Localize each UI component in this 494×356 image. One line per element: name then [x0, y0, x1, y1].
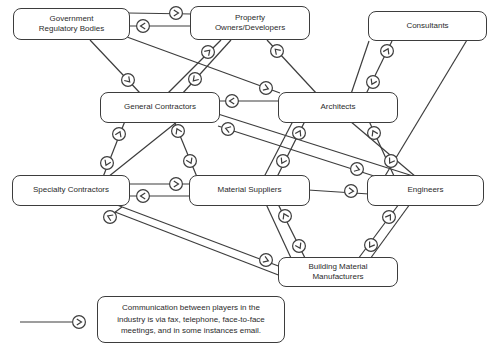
direction-arrow-icon: [73, 316, 86, 329]
direction-arrow-icon: [202, 46, 215, 59]
legend-note: Communication between players in the ind…: [97, 296, 285, 343]
direction-arrow-icon: [260, 254, 273, 267]
direction-arrow-icon: [184, 155, 197, 168]
connector-line: [115, 212, 281, 276]
direction-arrow-icon: [368, 127, 381, 140]
direction-arrow-icon: [104, 211, 117, 224]
node-engineers: Engineers: [367, 175, 484, 206]
node-consultants: Consultants: [368, 11, 487, 41]
direction-arrow-icon: [381, 45, 394, 58]
direction-arrow-icon: [293, 240, 306, 253]
direction-arrow-icon: [170, 178, 183, 191]
direction-arrow-icon: [385, 155, 398, 168]
direction-arrow-icon: [226, 95, 239, 108]
direction-arrow-icon: [345, 185, 358, 198]
direction-arrow-icon: [271, 45, 284, 58]
direction-arrow-icon: [293, 127, 306, 140]
connector-line: [127, 37, 280, 93]
node-government-regulatory-bodies: Government Regulatory Bodies: [13, 8, 130, 40]
direction-arrow-icon: [137, 20, 150, 33]
direction-arrow-icon: [113, 128, 126, 141]
connector-line: [218, 114, 413, 176]
node-material-suppliers: Material Suppliers: [189, 175, 310, 206]
connector-line: [351, 41, 369, 94]
node-property-owners-developers: Property Owners/Developers: [190, 6, 310, 40]
connector-line: [308, 190, 369, 194]
direction-arrow-icon: [383, 211, 396, 224]
node-specialty-contractors: Specialty Contractors: [12, 175, 130, 206]
direction-arrow-icon: [170, 7, 183, 20]
direction-arrow-icon: [172, 125, 185, 138]
direction-arrow-icon: [351, 163, 364, 176]
direction-arrow-icon: [277, 155, 290, 168]
direction-arrow-icon: [222, 123, 235, 136]
node-architects: Architects: [278, 92, 398, 123]
direction-arrow-icon: [189, 73, 202, 86]
direction-arrow-icon: [137, 190, 150, 203]
direction-arrow-icon: [101, 157, 114, 170]
connector-line: [117, 205, 281, 267]
direction-arrow-icon: [365, 239, 378, 252]
direction-arrow-icon: [122, 74, 135, 87]
node-building-material-manufacturers: Building Material Manufacturers: [278, 257, 398, 287]
direction-arrow-icon: [260, 82, 273, 95]
direction-arrow-icon: [279, 210, 292, 223]
direction-arrow-icon: [367, 76, 380, 89]
node-general-contractors: General Contractors: [100, 92, 220, 123]
diagram-canvas: Communication between players in the ind…: [0, 0, 494, 356]
